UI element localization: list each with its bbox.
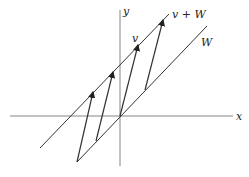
arrow-1 xyxy=(77,92,93,162)
coset-diagram: y x v + W v W xyxy=(0,0,249,177)
arrow-4 xyxy=(145,20,163,90)
v-plus-w-label: v + W xyxy=(172,9,206,20)
line-v-plus-w xyxy=(40,14,169,148)
line-w xyxy=(77,26,207,162)
w-label: W xyxy=(201,37,212,48)
v-label: v xyxy=(132,33,138,44)
y-axis-label: y xyxy=(123,6,129,17)
diagram-canvas xyxy=(0,0,249,177)
x-axis-label: x xyxy=(236,111,242,122)
arrow-2 xyxy=(96,72,113,141)
